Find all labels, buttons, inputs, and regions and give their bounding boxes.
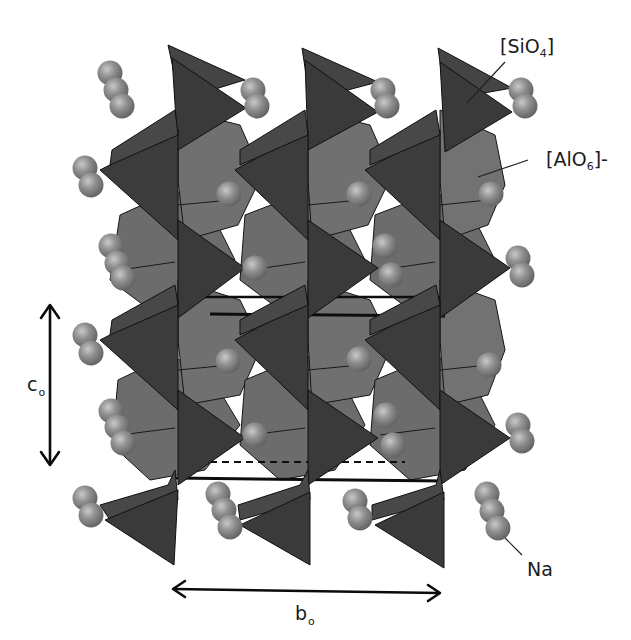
alo6-label-subscript: 6 <box>587 160 594 173</box>
alo6-label-suffix: ]- <box>594 148 608 170</box>
na-atom <box>79 503 104 528</box>
na-atom <box>373 234 398 259</box>
sio4-label-suffix: ] <box>547 35 554 57</box>
na-atom <box>348 506 373 531</box>
sio4-tetrahedra-layer <box>100 45 512 568</box>
b-axis-letter: b <box>295 602 307 624</box>
na-label: Na <box>527 560 553 579</box>
na-atom <box>217 182 242 207</box>
alo6-label: [AlO6]- <box>546 150 608 172</box>
sio4-label-prefix: [SiO <box>500 35 540 57</box>
na-atom <box>477 353 502 378</box>
na-atom <box>111 431 136 456</box>
c-axis-label: co <box>27 375 45 394</box>
na-atom <box>375 94 400 119</box>
na-atom <box>379 263 404 288</box>
na-atom <box>243 423 268 448</box>
alo6-label-prefix: [AlO <box>546 148 587 170</box>
na-atom <box>79 341 104 366</box>
na-atom <box>374 403 399 428</box>
na-atom <box>479 182 504 207</box>
na-atom <box>218 515 243 540</box>
na-atom <box>216 349 241 374</box>
na-leader-line <box>505 538 522 555</box>
na-atom <box>381 433 406 458</box>
na-label-text: Na <box>527 558 553 580</box>
b-axis-arrow <box>173 581 440 601</box>
na-atom <box>347 182 372 207</box>
crystal-structure-diagram <box>0 0 631 640</box>
b-axis-subscript: o <box>308 615 315 628</box>
na-atom <box>347 347 372 372</box>
na-atom <box>486 516 511 541</box>
na-atom <box>79 173 104 198</box>
na-atom <box>243 256 268 281</box>
na-atom <box>245 94 270 119</box>
na-atom <box>111 266 136 291</box>
na-atom <box>513 94 538 119</box>
na-atom <box>510 429 535 454</box>
b-axis-label: bo <box>295 604 315 623</box>
na-atom <box>510 263 535 288</box>
na-atom <box>110 94 135 119</box>
c-axis-subscript: o <box>38 386 45 399</box>
c-axis-letter: c <box>27 373 37 395</box>
sio4-label: [SiO4] <box>500 37 554 59</box>
sio4-label-subscript: 4 <box>540 47 547 60</box>
